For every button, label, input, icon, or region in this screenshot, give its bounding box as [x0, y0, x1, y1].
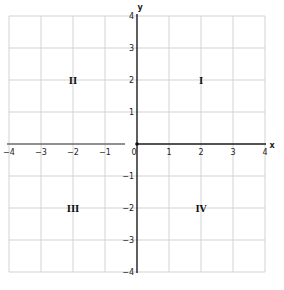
x-tick-label: −1 — [99, 148, 111, 157]
x-axis-label: x — [269, 141, 275, 150]
x-tick-label: 0 — [131, 148, 136, 157]
quadrant-label: IV — [195, 204, 207, 214]
x-tick-label: −2 — [67, 148, 79, 157]
y-tick-label: −4 — [122, 268, 134, 277]
y-tick-label: −3 — [122, 236, 134, 245]
y-tick-label: −1 — [122, 172, 134, 181]
x-tick-label: 4 — [262, 148, 267, 157]
y-tick-label: −2 — [122, 204, 134, 213]
coordinate-plane: −4−3−2−1012344321−1−2−3−4xyIIIIIIIV — [0, 0, 284, 290]
quadrant-label: I — [199, 76, 203, 86]
axes — [7, 14, 266, 273]
quadrant-label: III — [67, 204, 80, 214]
x-tick-label: −3 — [35, 148, 47, 157]
x-tick-label: 2 — [198, 148, 203, 157]
y-tick-label: 2 — [129, 76, 134, 85]
y-axis-label: y — [137, 3, 143, 12]
x-tick-label: 3 — [230, 148, 235, 157]
labels: −4−3−2−1012344321−1−2−3−4xyIIIIIIIV — [3, 3, 275, 277]
quadrant-label: II — [69, 76, 77, 86]
origin-point — [135, 142, 139, 146]
y-tick-label: 1 — [129, 108, 134, 117]
y-tick-label: 3 — [129, 44, 134, 53]
y-tick-label: 4 — [129, 12, 134, 21]
x-tick-label: 1 — [166, 148, 171, 157]
x-tick-label: −4 — [3, 148, 15, 157]
